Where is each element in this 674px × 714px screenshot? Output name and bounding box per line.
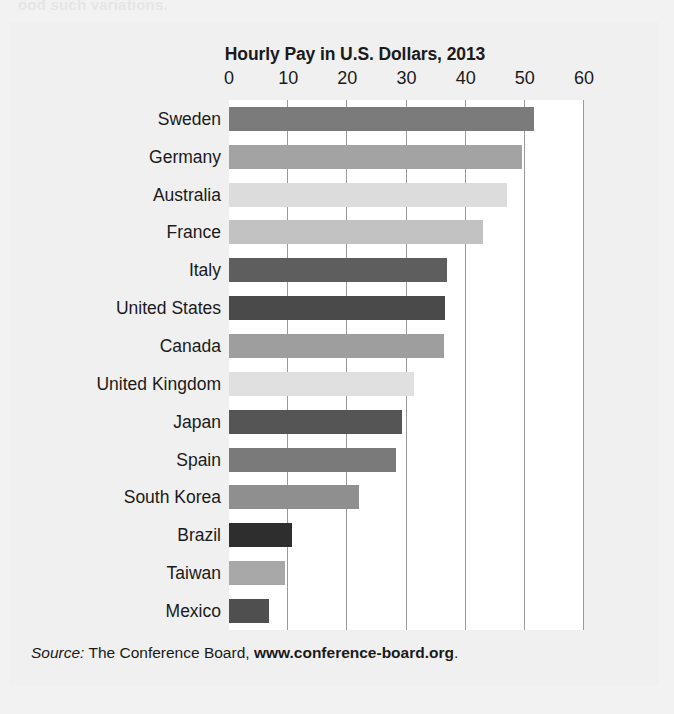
chart-row: Mexico bbox=[9, 592, 659, 630]
chart-row: Spain bbox=[9, 441, 659, 479]
chart-title: Hourly Pay in U.S. Dollars, 2013 bbox=[9, 44, 659, 65]
chart-row: United Kingdom bbox=[9, 365, 659, 403]
source-text: The Conference Board, bbox=[84, 644, 253, 661]
category-label-france: France bbox=[167, 222, 221, 243]
category-label-italy: Italy bbox=[189, 260, 221, 281]
source-period: . bbox=[454, 644, 458, 661]
chart-row: Italy bbox=[9, 251, 659, 289]
bar-germany bbox=[229, 145, 522, 169]
category-label-japan: Japan bbox=[173, 411, 221, 432]
chart-row: Brazil bbox=[9, 516, 659, 554]
scan-page-background: ood such variations. Hourly Pay in U.S. … bbox=[0, 0, 674, 714]
category-label-brazil: Brazil bbox=[177, 525, 221, 546]
bar-canada bbox=[229, 334, 444, 358]
x-axis-tick-10: 10 bbox=[278, 68, 298, 89]
bar-chart-figure: Hourly Pay in U.S. Dollars, 2013 0102030… bbox=[9, 22, 659, 685]
chart-row: Germany bbox=[9, 138, 659, 176]
category-label-united-kingdom: United Kingdom bbox=[96, 373, 221, 394]
category-label-sweden: Sweden bbox=[158, 108, 221, 129]
source-label: Source: bbox=[31, 644, 84, 661]
source-url[interactable]: www.conference-board.org bbox=[254, 644, 454, 661]
chart-row: Australia bbox=[9, 176, 659, 214]
category-label-australia: Australia bbox=[153, 184, 221, 205]
plot-wrapper: SwedenGermanyAustraliaFranceItalyUnited … bbox=[9, 100, 659, 630]
x-axis-tick-40: 40 bbox=[456, 68, 476, 89]
bar-spain bbox=[229, 448, 396, 472]
x-axis-tick-20: 20 bbox=[337, 68, 357, 89]
bar-united-states bbox=[229, 296, 445, 320]
source-note: Source: The Conference Board, www.confer… bbox=[31, 644, 458, 662]
category-label-canada: Canada bbox=[160, 336, 221, 357]
x-axis-tick-50: 50 bbox=[515, 68, 535, 89]
category-label-taiwan: Taiwan bbox=[167, 563, 221, 584]
category-label-germany: Germany bbox=[149, 146, 221, 167]
bar-italy bbox=[229, 258, 447, 282]
bar-france bbox=[229, 220, 483, 244]
chart-row: France bbox=[9, 214, 659, 252]
bar-sweden bbox=[229, 107, 534, 131]
bar-japan bbox=[229, 410, 402, 434]
x-axis-tick-30: 30 bbox=[396, 68, 416, 89]
chart-row: Canada bbox=[9, 327, 659, 365]
x-axis-tick-60: 60 bbox=[574, 68, 594, 89]
chart-row: Taiwan bbox=[9, 554, 659, 592]
category-label-united-states: United States bbox=[116, 298, 221, 319]
bar-united-kingdom bbox=[229, 372, 414, 396]
category-label-spain: Spain bbox=[176, 449, 221, 470]
category-label-mexico: Mexico bbox=[166, 601, 221, 622]
bar-mexico bbox=[229, 599, 269, 623]
chart-row: South Korea bbox=[9, 479, 659, 517]
bar-taiwan bbox=[229, 561, 285, 585]
bar-brazil bbox=[229, 523, 292, 547]
category-label-south-korea: South Korea bbox=[124, 487, 221, 508]
bar-south-korea bbox=[229, 485, 359, 509]
chart-row: United States bbox=[9, 289, 659, 327]
cropped-body-text: ood such variations. bbox=[18, 0, 318, 10]
page-bottom-strip bbox=[0, 685, 674, 714]
x-axis-tick-labels: 0102030405060 bbox=[9, 68, 659, 94]
x-axis-tick-0: 0 bbox=[224, 68, 234, 89]
bar-australia bbox=[229, 183, 507, 207]
chart-row: Sweden bbox=[9, 100, 659, 138]
chart-row: Japan bbox=[9, 403, 659, 441]
